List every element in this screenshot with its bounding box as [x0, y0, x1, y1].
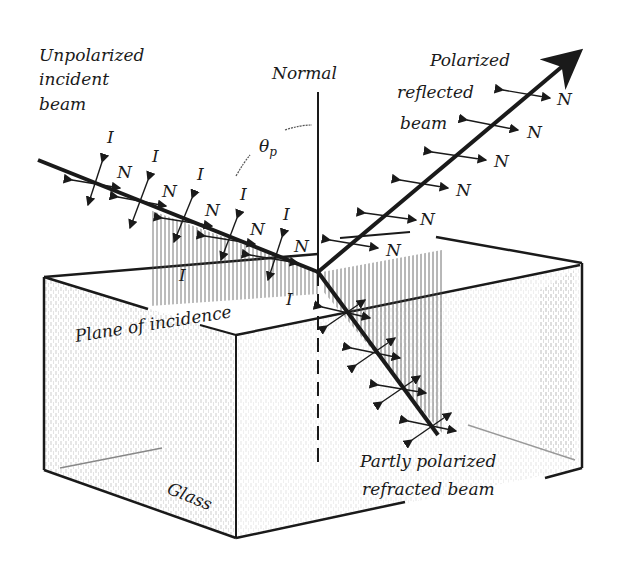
- incident-label-3: beam: [39, 94, 86, 114]
- symbol-i: I: [285, 289, 293, 309]
- refracted-label-1: Partly polarized: [359, 451, 496, 471]
- symbol-i: I: [196, 164, 204, 184]
- symbol-n: N: [455, 180, 472, 200]
- symbol-n: N: [116, 162, 133, 182]
- symbol-n: N: [385, 240, 402, 260]
- diagram-canvas: Unpolarized incident beam Normal Polariz…: [0, 0, 618, 573]
- symbol-i: I: [106, 127, 114, 147]
- symbol-n: N: [293, 236, 310, 256]
- refracted-label-2: refracted beam: [362, 479, 495, 499]
- symbol-n: N: [204, 200, 221, 220]
- symbol-n: N: [419, 209, 436, 229]
- reflected-label-3: beam: [400, 113, 447, 133]
- symbol-i: I: [178, 265, 186, 285]
- symbol-n: N: [493, 151, 510, 171]
- incident-label-1: Unpolarized: [39, 45, 145, 65]
- normal-label: Normal: [271, 63, 337, 83]
- reflected-label-1: Polarized: [429, 50, 510, 70]
- symbol-i: I: [151, 146, 159, 166]
- brewster-angle-symbol: θp: [259, 136, 277, 159]
- symbol-n: N: [526, 122, 543, 142]
- reflected-label-2: reflected: [397, 82, 474, 102]
- symbol-n: N: [249, 219, 266, 239]
- symbol-i: I: [282, 204, 290, 224]
- incident-label-2: incident: [39, 69, 109, 89]
- symbol-n: N: [161, 181, 178, 201]
- symbol-n: N: [556, 89, 573, 109]
- brewster-angle-diagram: Unpolarized incident beam Normal Polariz…: [0, 0, 618, 573]
- symbol-i: I: [239, 184, 247, 204]
